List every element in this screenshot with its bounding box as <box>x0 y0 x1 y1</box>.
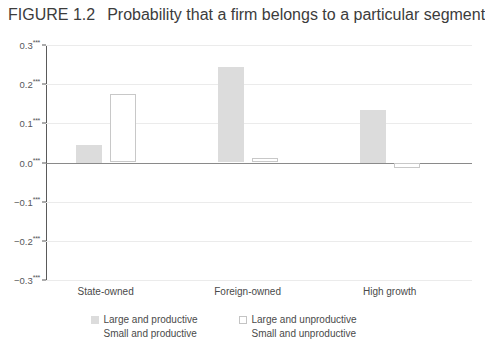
y-axis-tick-label: 0.1*** <box>20 118 41 130</box>
legend-label: Large and unproductive <box>252 314 357 325</box>
legend-swatch-icon <box>91 316 99 324</box>
y-tick-mark <box>42 45 46 46</box>
gridline <box>46 280 472 281</box>
x-axis-category-label: Foreign-owned <box>214 286 281 297</box>
gridline <box>46 202 472 203</box>
y-axis-tick-label: −0.3*** <box>14 274 40 286</box>
y-tick-mark <box>42 201 46 202</box>
y-axis-tick-label: −0.2*** <box>14 235 40 247</box>
x-axis-category-label: State-owned <box>78 286 134 297</box>
legend-label: Small and productive <box>104 328 197 339</box>
legend-item-small-and-unproductive: Small and unproductive <box>239 328 389 339</box>
bar <box>76 145 102 163</box>
legend-label: Large and productive <box>104 314 198 325</box>
figure-title: Probability that a firm belongs to a par… <box>107 6 485 24</box>
y-axis-tick-label: 0.0*** <box>20 157 41 169</box>
y-axis-tick-label: 0.2*** <box>20 78 41 90</box>
legend-swatch-icon <box>239 316 247 324</box>
legend-label: Small and unproductive <box>252 328 357 339</box>
plot-box: 0.3***0.2***0.1***0.0***−0.1***−0.2***−0… <box>46 45 472 280</box>
bar <box>110 94 136 163</box>
chart-legend: Large and productive Large and unproduct… <box>0 314 479 339</box>
bar <box>218 67 244 163</box>
bar <box>252 158 278 163</box>
legend-swatch-icon <box>91 330 99 338</box>
gridline <box>46 45 472 46</box>
y-tick-mark <box>42 84 46 85</box>
bar <box>394 163 420 169</box>
legend-item-small-and-productive: Small and productive <box>91 328 239 339</box>
legend-row-1: Large and productive Large and unproduct… <box>91 314 389 325</box>
x-axis-category-label: High growth <box>363 286 416 297</box>
y-axis-tick-label: −0.1*** <box>14 196 40 208</box>
figure-number: FIGURE 1.2 <box>8 6 95 24</box>
legend-swatch-icon <box>239 330 247 338</box>
gridline <box>46 84 472 85</box>
bar <box>360 110 386 163</box>
legend-row-2: Small and productive Small and unproduct… <box>91 328 389 339</box>
figure-header: FIGURE 1.2 Probability that a firm belon… <box>8 6 485 24</box>
y-tick-mark <box>42 280 46 281</box>
legend-item-large-and-productive: Large and productive <box>91 314 239 325</box>
legend-item-large-and-unproductive: Large and unproductive <box>239 314 389 325</box>
y-axis-tick-label: 0.3*** <box>20 39 41 51</box>
y-tick-mark <box>42 240 46 241</box>
y-tick-mark <box>42 123 46 124</box>
gridline <box>46 241 472 242</box>
chart-area: 0.3***0.2***0.1***0.0***−0.1***−0.2***−0… <box>0 34 479 292</box>
